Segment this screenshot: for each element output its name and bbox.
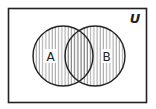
set-a-label: A bbox=[46, 50, 55, 64]
venn-diagram: A B U bbox=[0, 0, 156, 109]
universe-label: U bbox=[130, 11, 141, 26]
set-b-label: B bbox=[102, 50, 110, 64]
